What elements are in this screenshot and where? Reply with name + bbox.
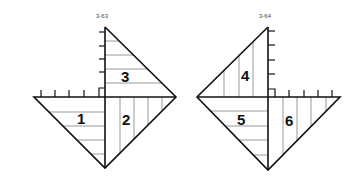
region-5-label: 5	[237, 111, 245, 128]
figure-label: 3-63	[96, 13, 109, 19]
region-6-label: 6	[285, 112, 293, 129]
region-3-hatching	[105, 41, 162, 83]
vertical-axis-ticks	[268, 31, 275, 97]
region-2-label: 2	[122, 111, 130, 128]
region-1-label: 1	[77, 110, 85, 127]
figure-3-64: 3-64	[197, 13, 340, 170]
horizontal-axis-ticks	[41, 90, 84, 97]
horizontal-axis-ticks	[289, 90, 332, 97]
diagram-canvas: 3-63	[0, 0, 358, 182]
vertical-axis-ticks	[99, 32, 105, 97]
figure-label: 3-64	[259, 13, 272, 19]
figure-3-63: 3-63	[34, 13, 176, 168]
region-3-label: 3	[121, 68, 129, 85]
region-4-label: 4	[241, 67, 250, 84]
